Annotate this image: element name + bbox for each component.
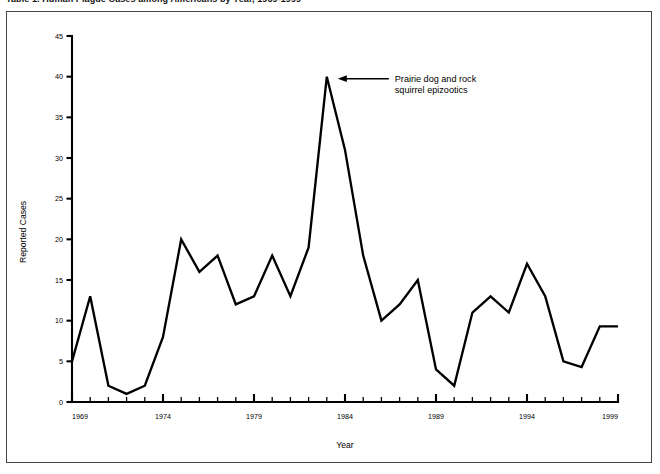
- x-tick-label: 1969: [72, 412, 88, 421]
- x-tick-label: 1989: [428, 412, 444, 421]
- x-axis-title: Year: [336, 440, 354, 450]
- x-tick-label: 1979: [246, 412, 262, 421]
- y-axis-title: Reported Cases: [18, 201, 28, 263]
- y-tick-label: 15: [55, 276, 63, 285]
- y-tick-label: 45: [55, 32, 63, 41]
- y-tick-label: 40: [55, 72, 63, 81]
- y-tick-label: 0: [59, 398, 63, 407]
- y-tick-label: 20: [55, 235, 63, 244]
- chart-plot-area: 051015202530354045 196919741979198419891…: [0, 0, 660, 474]
- y-axis: 051015202530354045: [55, 32, 72, 407]
- annotation-group: Prairie dog and rocksquirrel epizootics: [338, 74, 477, 95]
- annotation-text-line-2: squirrel epizootics: [395, 85, 468, 95]
- annotation-text-line-1: Prairie dog and rock: [395, 74, 477, 84]
- line-chart: 051015202530354045 196919741979198419891…: [0, 0, 660, 474]
- y-tick-label: 35: [55, 113, 63, 122]
- x-tick-label: 1984: [337, 412, 353, 421]
- y-tick-label: 25: [55, 194, 63, 203]
- x-tick-label: 1994: [519, 412, 535, 421]
- y-tick-label: 5: [59, 357, 63, 366]
- x-tick-label: 1974: [155, 412, 171, 421]
- y-tick-label: 30: [55, 154, 63, 163]
- annotation-arrow-icon: [338, 75, 347, 82]
- x-tick-label: 1999: [602, 412, 618, 421]
- data-series-reported-cases: [72, 77, 618, 394]
- series-polyline: [72, 77, 618, 394]
- x-axis: 1969197419791984198919941999: [72, 394, 618, 421]
- y-tick-label: 10: [55, 316, 63, 325]
